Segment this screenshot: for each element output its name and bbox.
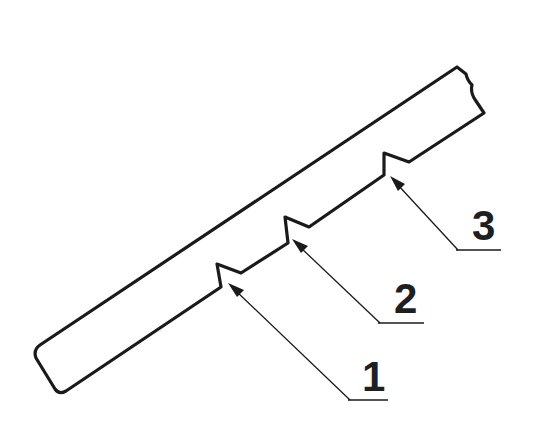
callout-label-3: 3	[472, 205, 495, 247]
callout-label-2: 2	[394, 278, 417, 320]
arrow-icon-1	[228, 283, 244, 297]
callout-label-1: 1	[362, 356, 385, 398]
diagram-canvas	[0, 0, 536, 436]
arrow-icon-2	[292, 239, 308, 253]
leader-line-3	[397, 184, 458, 250]
leader-line-1	[236, 291, 350, 400]
leader-line-2	[300, 247, 380, 323]
arrow-icon-3	[390, 176, 405, 191]
stepped-bar-outline	[35, 67, 484, 393]
